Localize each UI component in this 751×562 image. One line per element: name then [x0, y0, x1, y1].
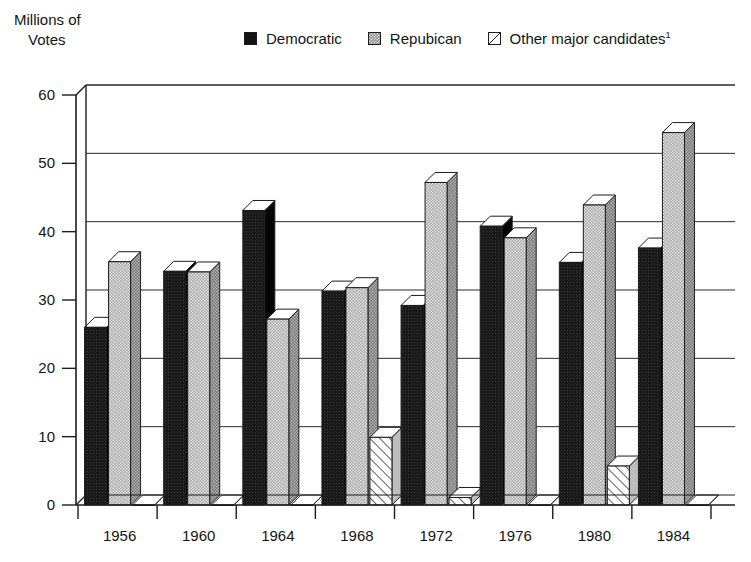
y-axis-tick-label: 20 [38, 359, 55, 376]
bar-1956-repubican [109, 252, 141, 505]
x-axis-ticks: 19561960196419681972197619801984 [78, 505, 711, 544]
x-axis-tick-label: 1976 [499, 527, 532, 544]
bar-1980-repubican [583, 195, 615, 505]
x-axis-tick-label: 1956 [103, 527, 136, 544]
bar-1960-repubican [188, 262, 220, 505]
x-axis-tick-label: 1972 [419, 527, 452, 544]
x-axis-tick-label: 1968 [340, 527, 373, 544]
bar-1976-repubican [504, 228, 536, 505]
bar-groups [85, 123, 719, 506]
bar-1972-repubican [425, 172, 457, 505]
y-axis-ticks: 0102030405060 [38, 86, 76, 513]
bar-chart: 0102030405060 19561960196419681972197619… [0, 0, 751, 562]
bar-1984-repubican [662, 123, 694, 505]
y-axis-tick-label: 40 [38, 223, 55, 240]
x-axis-tick-label: 1980 [578, 527, 611, 544]
x-axis-tick-label: 1960 [182, 527, 215, 544]
y-axis-tick-label: 0 [47, 496, 55, 513]
y-axis-tick-label: 10 [38, 428, 55, 445]
y-axis-tick-label: 30 [38, 291, 55, 308]
bar-1980-other-major-candidates [607, 456, 639, 505]
y-axis-tick-label: 60 [38, 86, 55, 103]
chart-canvas: 0102030405060 19561960196419681972197619… [0, 0, 751, 562]
bar-1968-other-major-candidates [370, 427, 402, 505]
bar-1964-repubican [267, 309, 299, 505]
x-axis-tick-label: 1984 [657, 527, 690, 544]
x-axis-tick-label: 1964 [261, 527, 294, 544]
y-axis-tick-label: 50 [38, 154, 55, 171]
